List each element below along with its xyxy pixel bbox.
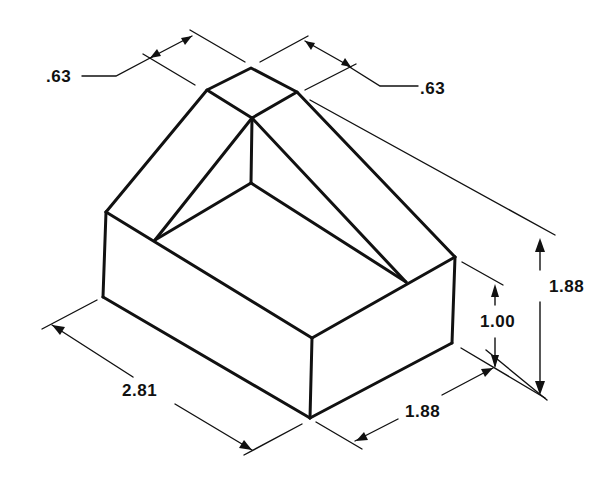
dimension-length (42, 300, 302, 455)
ridge-top-face (207, 68, 297, 118)
arrow-icon (356, 432, 368, 441)
arrow-icon (181, 36, 192, 45)
box-left-edge (103, 212, 106, 297)
dimension-label-top-left: .63 (46, 68, 71, 85)
arrow-icon (305, 41, 315, 50)
dimension-top-right (260, 36, 418, 90)
box-front-vertical-edge (310, 338, 312, 418)
box-front-top-edge (106, 212, 312, 338)
arrow-icon (481, 368, 493, 377)
arrow-icon (239, 440, 252, 450)
inner-back-left-edge (155, 183, 251, 240)
dimension-label-length: 2.81 (122, 382, 157, 399)
box-right-vertical-edge (452, 257, 455, 343)
ridge-right-slope-edge (297, 92, 455, 257)
object-outline (103, 68, 455, 418)
arrow-icon (535, 238, 545, 252)
dimension-label-overall-height: 1.88 (549, 278, 584, 295)
isometric-drawing (0, 0, 598, 495)
dimension-label-top-right: .63 (420, 80, 445, 97)
arrow-icon (341, 58, 351, 67)
dimension-top-left (82, 30, 245, 85)
inner-vertical-edge (251, 118, 252, 183)
dimension-label-depth: 1.88 (405, 403, 440, 420)
dimension-label-base-height: 1.00 (480, 313, 515, 330)
arrow-icon (52, 325, 65, 335)
arrow-icon (491, 284, 499, 297)
